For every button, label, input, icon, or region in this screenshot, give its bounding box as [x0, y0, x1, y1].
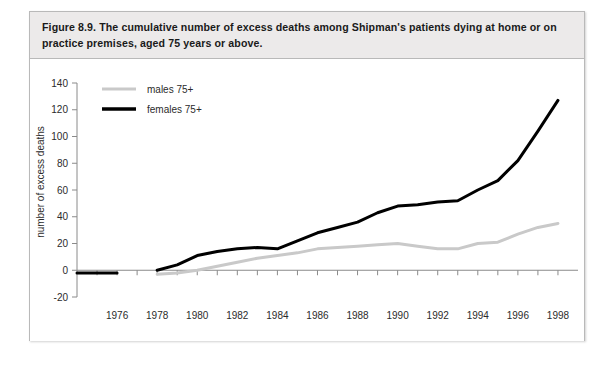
- y-axis-tick-label: 0: [62, 265, 68, 276]
- y-axis-tick-label: -20: [54, 292, 69, 303]
- x-axis-tick-label: 1978: [146, 310, 169, 321]
- x-axis-tick-label: 1996: [507, 310, 530, 321]
- y-axis-tick-label: 40: [57, 211, 69, 222]
- figure-container: Figure 8.9. The cumulative number of exc…: [29, 11, 585, 341]
- x-axis-tick-label: 1980: [186, 310, 209, 321]
- y-axis-tick-label: 20: [57, 238, 69, 249]
- y-axis-tick-label: 80: [57, 158, 69, 169]
- x-axis-tick-label: 1976: [106, 310, 129, 321]
- legend-label-1: females 75+: [147, 104, 202, 115]
- chart-series: [77, 100, 558, 274]
- y-axis-tick-label: 120: [51, 104, 68, 115]
- figure-caption: Figure 8.9. The cumulative number of exc…: [42, 19, 572, 51]
- x-axis-tick-label: 1994: [467, 310, 490, 321]
- x-axis-tick-label: 1992: [427, 310, 450, 321]
- figure-caption-bar: Figure 8.9. The cumulative number of exc…: [30, 12, 584, 59]
- x-axis-tick-label: 1988: [346, 310, 369, 321]
- y-axis-tick-label: 140: [51, 78, 68, 89]
- y-axis-tick-label: 60: [57, 185, 69, 196]
- x-axis-tick-label: 1982: [226, 310, 249, 321]
- chart-axes: 140120100806040200-201976197819801982198…: [51, 78, 578, 321]
- x-axis-tick-label: 1986: [306, 310, 329, 321]
- y-axis-title: number of excess deaths: [35, 126, 46, 238]
- x-axis-tick-label: 1984: [266, 310, 289, 321]
- legend-label-0: males 75+: [147, 84, 194, 95]
- y-axis-tick-label: 100: [51, 131, 68, 142]
- x-axis-tick-label: 1998: [547, 310, 570, 321]
- chart-legend: males 75+females 75+: [102, 84, 202, 115]
- line-chart: 140120100806040200-201976197819801982198…: [30, 59, 584, 341]
- chart-axis-titles: yearnumber of excess deaths: [35, 126, 338, 341]
- series-line-males: [157, 223, 558, 274]
- x-axis-tick-label: 1990: [387, 310, 410, 321]
- chart-plot-area: 140120100806040200-201976197819801982198…: [30, 59, 584, 341]
